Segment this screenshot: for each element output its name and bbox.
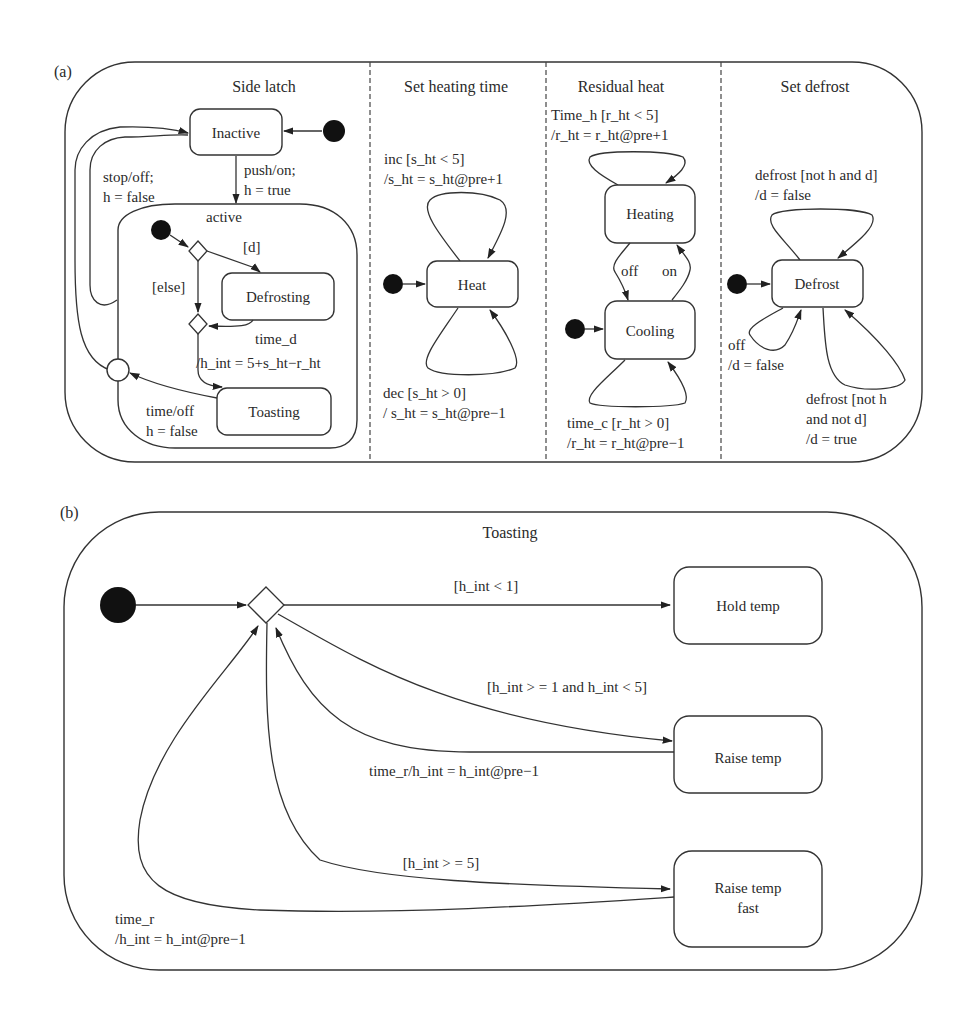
transition-label: defrost [not h and d]: [755, 167, 877, 183]
guard-label: [h_int < 1]: [454, 578, 518, 594]
panel-a-tag: (a): [54, 63, 72, 81]
transition-label: stop/off;: [103, 169, 154, 185]
initial-pseudostate: [727, 274, 747, 294]
region-title: Set defrost: [781, 78, 850, 95]
exit-junction: [107, 359, 129, 381]
action-label: /h_int = 5+s_ht−r_ht: [196, 355, 321, 371]
state-label: Heat: [458, 277, 487, 293]
transition-label: h = true: [244, 182, 291, 198]
transition-label: /h_int = h_int@pre−1: [115, 931, 246, 947]
transition-label: h = false: [146, 423, 198, 439]
state-raise-temp-fast: [674, 851, 822, 947]
transition-label: dec [s_ht > 0]: [383, 385, 466, 401]
state-label: Inactive: [212, 125, 261, 141]
transition-label: time_d: [255, 331, 297, 347]
state-label: Toasting: [248, 404, 300, 420]
transition-label: time_r: [115, 911, 154, 927]
transition-label: /d = true: [806, 431, 857, 447]
state-label: Raise temp: [714, 880, 781, 896]
transition-label: defrost [not h: [806, 391, 887, 407]
initial-pseudostate: [323, 120, 345, 142]
initial-pseudostate: [565, 319, 585, 339]
transition-label: time_c [r_ht > 0]: [567, 415, 669, 431]
transition-label: off: [728, 337, 745, 353]
statechart-figure: (a) Side latch Inactive stop/off; h = fa…: [0, 0, 967, 1009]
transition-label: /r_ht = r_ht@pre+1: [551, 127, 668, 143]
state-label: Hold temp: [716, 598, 780, 614]
guard-label: [h_int > = 5]: [403, 855, 480, 871]
transition-label: /r_ht = r_ht@pre−1: [567, 435, 684, 451]
state-label: Defrosting: [246, 289, 311, 305]
transition-label: push/on;: [244, 162, 296, 178]
state-label: Raise temp: [714, 750, 781, 766]
region-title: Set heating time: [404, 78, 508, 96]
guard-label: [h_int > = 1 and h_int < 5]: [487, 679, 647, 695]
transition-label: inc [s_ht < 5]: [384, 151, 465, 167]
guard-label: [else]: [152, 279, 185, 295]
transition-label: time/off: [146, 403, 194, 419]
region-title: Residual heat: [578, 78, 665, 95]
transition-label: /d = false: [755, 187, 811, 203]
transition-label: / s_ht = s_ht@pre−1: [383, 405, 506, 421]
state-label: fast: [737, 900, 759, 916]
transition-label: /d = false: [728, 357, 784, 373]
region-title: Side latch: [232, 78, 296, 95]
panel-b-tag: (b): [60, 504, 79, 522]
initial-pseudostate: [383, 274, 403, 294]
transition-label: time_r/h_int = h_int@pre−1: [369, 763, 539, 779]
transition-label: /s_ht = s_ht@pre+1: [384, 171, 503, 187]
transition-label: on: [662, 263, 678, 279]
composite-title: Toasting: [483, 524, 538, 542]
initial-pseudostate: [151, 220, 171, 240]
state-label: active: [206, 209, 242, 225]
initial-pseudostate: [100, 587, 136, 623]
transition-label: Time_h [r_ht < 5]: [551, 107, 659, 123]
guard-label: [d]: [243, 239, 261, 255]
transition-label: h = false: [103, 189, 155, 205]
transition-label: off: [621, 263, 638, 279]
state-label: Cooling: [626, 323, 675, 339]
transition-label: and not d]: [806, 411, 867, 427]
state-label: Heating: [626, 206, 674, 222]
state-label: Defrost: [795, 276, 841, 292]
